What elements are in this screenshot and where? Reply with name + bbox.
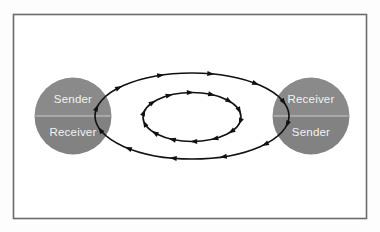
right-node-bottom-label: Sender	[292, 126, 330, 138]
left-node-top-label: Sender	[54, 93, 92, 105]
diagram-canvas: Sender-Receiver bidirectional communicat…	[0, 0, 380, 232]
node-right: Receiver Sender	[273, 78, 350, 155]
sender-receiver-diagram: Sender-Receiver bidirectional communicat…	[0, 0, 380, 232]
right-node-top-label: Receiver	[288, 93, 335, 105]
left-node-bottom-label: Receiver	[50, 126, 97, 138]
node-left: Sender Receiver	[35, 78, 112, 155]
